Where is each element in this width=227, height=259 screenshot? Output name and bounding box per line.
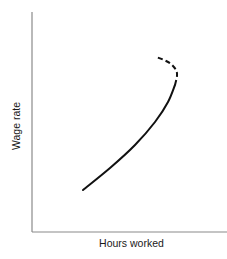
x-axis-label: Hours worked [0, 237, 227, 249]
supply-curve-dashed [156, 57, 177, 85]
supply-curve-solid [83, 85, 175, 190]
labor-supply-chart [0, 0, 227, 259]
y-axis-label: Wage rate [10, 102, 22, 150]
